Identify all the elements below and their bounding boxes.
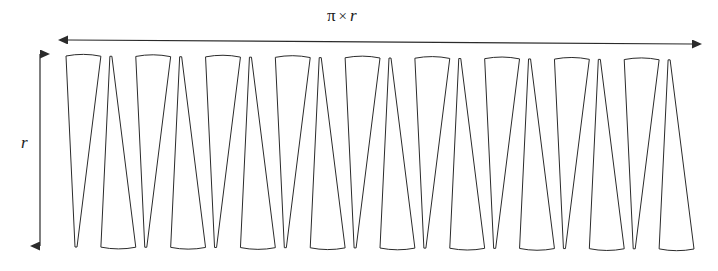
sector-rectangle-diagram xyxy=(0,0,718,271)
circle-sector xyxy=(345,56,380,248)
sectors-group xyxy=(66,54,694,250)
circle-sector xyxy=(206,55,241,247)
circle-sector xyxy=(554,57,589,248)
circle-sector xyxy=(520,59,555,250)
circle-sector xyxy=(450,59,485,251)
circle-sector xyxy=(415,57,450,249)
circle-sector xyxy=(275,56,310,248)
circle-sector xyxy=(659,60,694,251)
circle-sector xyxy=(240,57,275,249)
circle-sector xyxy=(136,55,171,247)
circle-sector xyxy=(624,58,659,249)
circle-sector xyxy=(589,59,624,250)
circle-sector xyxy=(66,54,101,247)
circle-sector xyxy=(310,58,345,250)
pi-symbol: π xyxy=(327,6,337,25)
radius-symbol-horizontal: r xyxy=(350,6,358,25)
circle-sector xyxy=(101,56,136,249)
circle-sector xyxy=(171,57,206,249)
times-symbol: × xyxy=(337,8,350,24)
radius-symbol-vertical: r xyxy=(21,133,28,152)
height-label: r xyxy=(21,133,28,153)
circle-sector xyxy=(380,58,415,250)
width-dimension-arrow xyxy=(68,40,692,44)
figure-root: π×r r xyxy=(0,0,718,271)
circle-sector xyxy=(485,57,520,248)
width-label: π×r xyxy=(327,6,358,26)
